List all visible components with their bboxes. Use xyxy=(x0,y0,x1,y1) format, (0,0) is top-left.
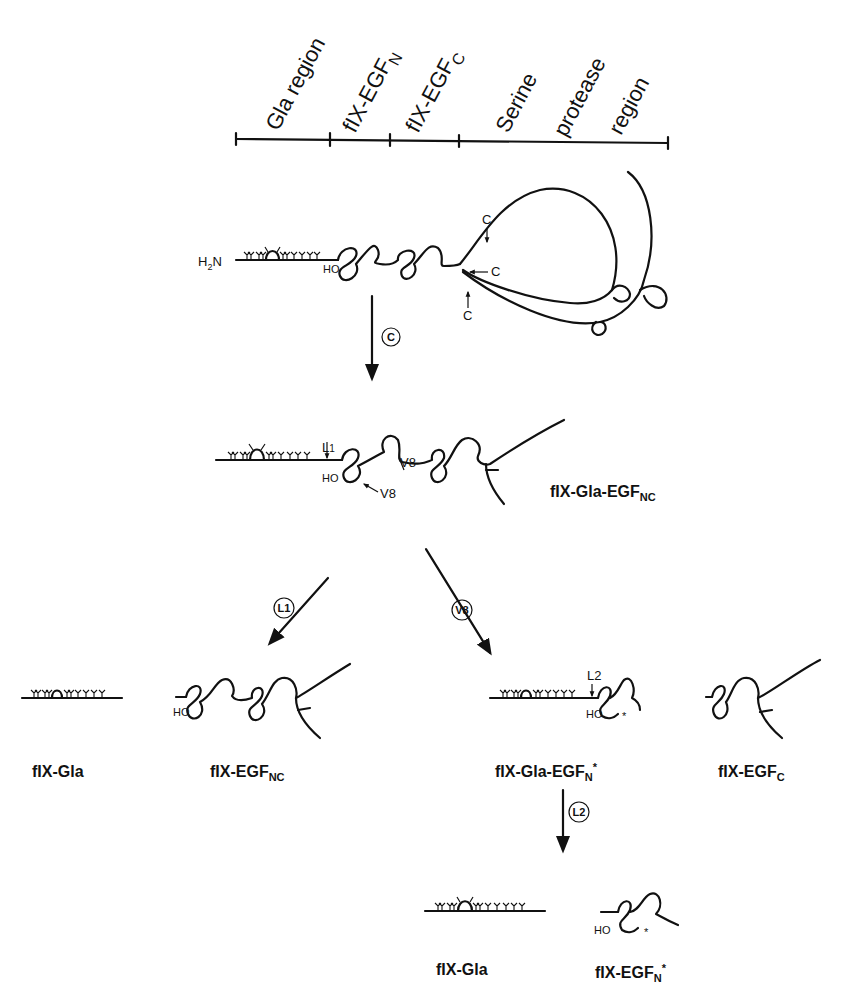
intact-factor-ix: H2N HO C C C xyxy=(198,172,667,335)
factor-ix-proteolysis-diagram: Gla region fIX-EGFN fIX-EGFC Serine prot… xyxy=(0,0,845,1001)
region-label-egf-c: fIX-EGFC xyxy=(400,44,468,138)
region-label-egf-n: fIX-EGFN xyxy=(337,44,405,138)
fix-gla-egf-nc: L1 HO V8 V8 fIX-Gla-EGFNC xyxy=(216,420,656,504)
region-label-gla: Gla region xyxy=(260,33,330,134)
fix-gla-label: fIX-Gla xyxy=(32,763,84,780)
fix-gla-label-2: fIX-Gla xyxy=(436,961,488,978)
product-fix-egf-n-star: HO * fIX-EGFN* xyxy=(594,893,678,984)
site-v8-b: V8 xyxy=(380,486,396,501)
step-c-arrow: C xyxy=(372,296,400,378)
enzyme-label-c: C xyxy=(387,331,395,343)
enzyme-label-l1: L1 xyxy=(278,602,291,614)
modification-mark: * xyxy=(644,926,649,938)
hydroxyl-label: HO xyxy=(586,708,603,720)
hydroxyl-label: HO xyxy=(173,706,190,718)
product-fix-gla: fIX-Gla xyxy=(22,690,122,780)
product-fix-gla-2: fIX-Gla xyxy=(425,897,545,978)
product-fix-egf-c: fIX-EGFC xyxy=(706,660,820,783)
step-v8-arrow: V8 xyxy=(426,549,490,653)
region-label-region: region xyxy=(603,73,654,139)
hydroxyl-label: HO xyxy=(322,472,339,484)
cleavage-site-c1: C xyxy=(482,212,491,227)
modification-mark: * xyxy=(622,710,627,722)
hydroxyl-label: HO xyxy=(323,263,340,275)
fix-gla-egf-nc-label: fIX-Gla-EGFNC xyxy=(550,483,656,503)
n-terminus-label: H2N xyxy=(198,254,222,272)
region-label-serine: Serine xyxy=(490,68,542,136)
region-label-protease: protease xyxy=(548,53,610,140)
product-fix-egf-nc: HO fIX-EGFNC xyxy=(173,664,350,783)
site-v8-a: V8 xyxy=(400,455,416,470)
fix-egf-n-star-label: fIX-EGFN* xyxy=(595,962,667,984)
fix-egf-nc-label: fIX-EGFNC xyxy=(210,763,285,783)
enzyme-label-v8: V8 xyxy=(455,604,468,616)
fix-egf-c-label: fIX-EGFC xyxy=(718,763,785,783)
product-fix-gla-egf-n-star: L2 HO * fIX-Gla-EGFN* xyxy=(490,668,640,783)
step-l1-arrow: L1 xyxy=(270,578,328,643)
domain-ruler: Gla region fIX-EGFN fIX-EGFC Serine prot… xyxy=(236,33,668,149)
fix-gla-egf-n-star-label: fIX-Gla-EGFN* xyxy=(495,761,598,783)
cleavage-site-c3: C xyxy=(463,308,472,323)
site-l2: L2 xyxy=(587,668,601,683)
hydroxyl-label: HO xyxy=(594,924,611,936)
cleavage-site-c2: C xyxy=(491,264,500,279)
enzyme-label-l2: L2 xyxy=(573,806,586,818)
step-l2-arrow: L2 xyxy=(563,790,589,850)
site-l1: L1 xyxy=(322,440,335,455)
